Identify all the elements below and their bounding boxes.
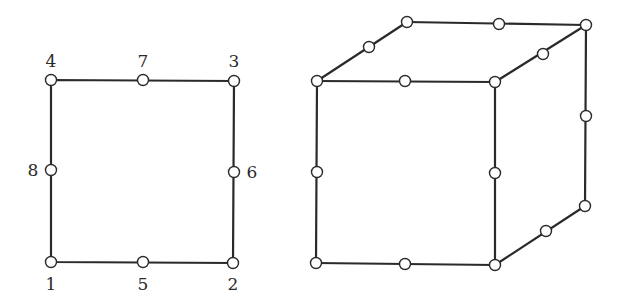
quad-node-label-3: 3 xyxy=(229,51,240,71)
hex-corner-node xyxy=(311,258,322,269)
quad-node-label-4: 4 xyxy=(46,51,57,71)
quad-outline xyxy=(51,80,234,263)
quad-element: 12345678 xyxy=(28,51,258,294)
quad-node-6 xyxy=(229,167,240,178)
quad-node-4 xyxy=(46,75,57,86)
hex-corner-node xyxy=(490,77,501,88)
quad-node-label-1: 1 xyxy=(46,274,57,294)
quad-node-7 xyxy=(138,75,149,86)
hex-corner-node xyxy=(580,201,591,212)
hex-midside-node xyxy=(494,19,505,30)
element-diagram: 12345678 xyxy=(0,0,619,306)
hex-midside-node xyxy=(541,226,552,237)
quad-node-label-7: 7 xyxy=(138,51,149,71)
hex-midside-node xyxy=(312,167,323,178)
hex-midside-node xyxy=(538,49,549,60)
quad-node-2 xyxy=(228,258,239,269)
quad-node-label-2: 2 xyxy=(228,274,239,294)
quad-node-8 xyxy=(46,165,57,176)
hex-edge xyxy=(317,22,407,81)
hex-corner-node xyxy=(312,76,323,87)
hex-midside-node xyxy=(400,76,411,87)
hex-midside-node xyxy=(364,42,375,53)
quad-node-label-5: 5 xyxy=(138,274,149,294)
hex-midside-node xyxy=(400,259,411,270)
hex-corner-node xyxy=(402,17,413,28)
quad-node-label-8: 8 xyxy=(28,160,39,180)
hex-corner-node xyxy=(490,260,501,271)
hex-corner-node xyxy=(581,20,592,31)
quad-node-1 xyxy=(46,257,57,268)
quad-node-5 xyxy=(138,257,149,268)
hex-midside-node xyxy=(490,168,501,179)
hex-midside-node xyxy=(581,111,592,122)
quad-node-label-6: 6 xyxy=(247,162,258,182)
hex-element xyxy=(311,17,592,271)
quad-node-3 xyxy=(229,76,240,87)
hex-edge xyxy=(495,206,585,265)
